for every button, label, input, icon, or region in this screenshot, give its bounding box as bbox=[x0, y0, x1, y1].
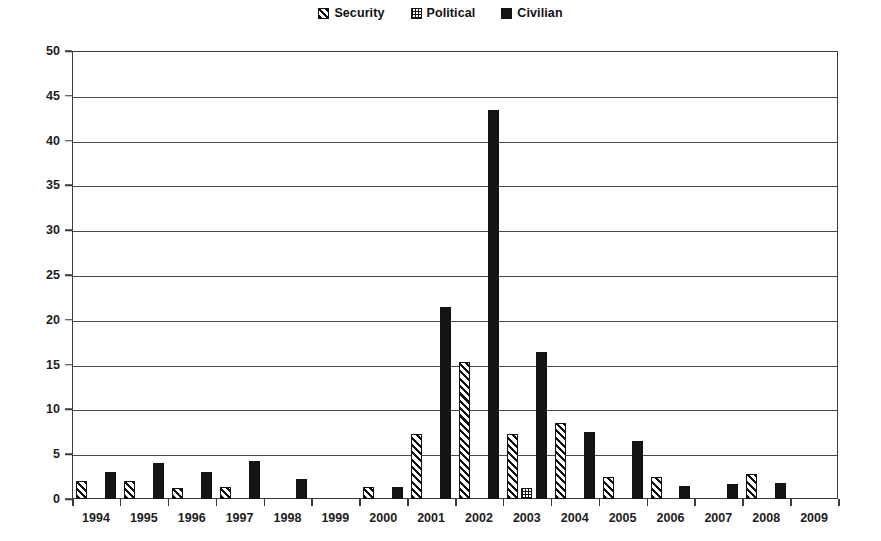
legend-label-political: Political bbox=[427, 6, 476, 20]
bar-civilian-1994 bbox=[105, 472, 116, 499]
y-tick-label: 50 bbox=[26, 44, 60, 58]
bars-layer bbox=[72, 51, 838, 499]
x-tick-mark bbox=[599, 499, 601, 506]
bar-civilian-1996 bbox=[201, 472, 212, 499]
bar-security-2001 bbox=[411, 434, 422, 499]
bar-security-2000 bbox=[363, 487, 374, 499]
bar-security-1995 bbox=[124, 481, 135, 499]
bar-civilian-2008 bbox=[775, 483, 786, 499]
x-tick-mark bbox=[838, 499, 840, 506]
solid-swatch-icon bbox=[501, 8, 512, 19]
bar-security-2002 bbox=[459, 362, 470, 499]
bar-civilian-1995 bbox=[153, 463, 164, 499]
x-tick-mark bbox=[503, 499, 505, 506]
y-tick-mark bbox=[65, 229, 72, 231]
y-tick-label: 15 bbox=[26, 358, 60, 372]
y-tick-label: 20 bbox=[26, 313, 60, 327]
bar-security-1994 bbox=[76, 481, 87, 499]
bar-civilian-1997 bbox=[249, 461, 260, 499]
y-tick-mark bbox=[65, 50, 72, 52]
y-tick-label: 10 bbox=[26, 402, 60, 416]
bar-civilian-2007 bbox=[727, 484, 738, 499]
legend-label-civilian: Civilian bbox=[517, 6, 562, 20]
x-tick-mark bbox=[694, 499, 696, 506]
y-tick-label: 0 bbox=[26, 492, 60, 506]
x-tick-mark bbox=[455, 499, 457, 506]
bar-security-1996 bbox=[172, 488, 183, 499]
legend-label-security: Security bbox=[334, 6, 384, 20]
bar-civilian-1998 bbox=[296, 479, 307, 499]
y-tick-mark bbox=[65, 140, 72, 142]
chart-legend: Security Political Civilian bbox=[0, 6, 881, 20]
bar-security-2005 bbox=[603, 477, 614, 499]
x-tick-mark bbox=[359, 499, 361, 506]
bar-security-2004 bbox=[555, 423, 566, 499]
y-tick-label: 5 bbox=[26, 447, 60, 461]
bar-civilian-2003 bbox=[536, 352, 547, 499]
y-tick-label: 25 bbox=[26, 268, 60, 282]
bar-civilian-2001 bbox=[440, 307, 451, 499]
x-tick-mark bbox=[216, 499, 218, 506]
x-tick-mark bbox=[647, 499, 649, 506]
bar-civilian-2005 bbox=[632, 441, 643, 499]
x-tick-mark bbox=[264, 499, 266, 506]
x-tick-mark bbox=[168, 499, 170, 506]
x-tick-mark bbox=[742, 499, 744, 506]
y-tick-mark bbox=[65, 409, 72, 411]
y-tick-label: 40 bbox=[26, 134, 60, 148]
x-tick-mark bbox=[120, 499, 122, 506]
bar-civilian-2000 bbox=[392, 487, 403, 499]
y-tick-mark bbox=[65, 185, 72, 187]
legend-item-civilian: Civilian bbox=[501, 6, 562, 20]
x-tick-mark bbox=[407, 499, 409, 506]
hatch-swatch-icon bbox=[318, 8, 329, 19]
bar-civilian-2006 bbox=[679, 486, 690, 499]
bar-political-2003 bbox=[521, 488, 532, 499]
bar-security-2006 bbox=[651, 477, 662, 499]
y-tick-label: 45 bbox=[26, 89, 60, 103]
x-tick-mark bbox=[72, 499, 74, 506]
y-tick-mark bbox=[65, 498, 72, 500]
bar-security-2008 bbox=[746, 474, 757, 499]
legend-item-political: Political bbox=[411, 6, 476, 20]
bar-civilian-2002 bbox=[488, 110, 499, 499]
y-tick-label: 35 bbox=[26, 178, 60, 192]
y-tick-mark bbox=[65, 95, 72, 97]
y-tick-mark bbox=[65, 274, 72, 276]
y-tick-mark bbox=[65, 364, 72, 366]
bar-security-2003 bbox=[507, 434, 518, 499]
bar-civilian-2004 bbox=[584, 432, 595, 499]
x-tick-label: 2009 bbox=[784, 511, 844, 525]
y-tick-mark bbox=[65, 453, 72, 455]
dotted-swatch-icon bbox=[411, 8, 422, 19]
legend-item-security: Security bbox=[318, 6, 384, 20]
y-tick-label: 30 bbox=[26, 223, 60, 237]
y-tick-mark bbox=[65, 319, 72, 321]
x-tick-mark bbox=[551, 499, 553, 506]
x-tick-mark bbox=[311, 499, 313, 506]
bar-security-1997 bbox=[220, 487, 231, 499]
x-tick-mark bbox=[790, 499, 792, 506]
